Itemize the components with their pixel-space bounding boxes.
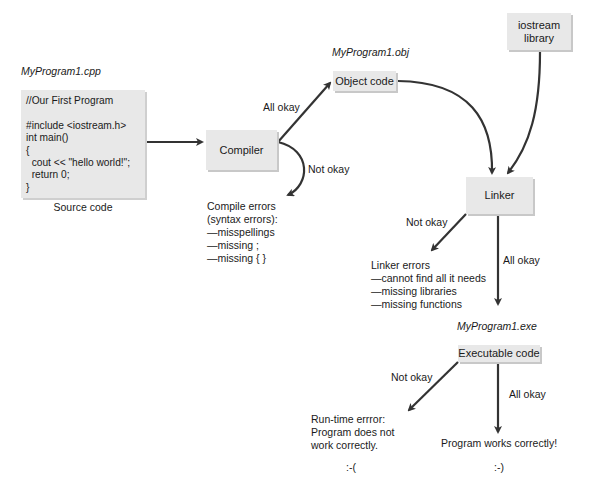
code-line: cout << "hello world!"; [26,157,140,169]
arrow-exe-to-runtime-error [409,362,458,410]
linker-not-okay-label: Not okay [406,216,447,229]
linker-box: Linker [466,177,533,214]
linker-error-item: —cannot find all it needs [371,272,486,285]
compile-error-item: —missing { } [207,252,278,265]
source-caption: Source code [21,201,145,214]
linker-error-item: —missing libraries [371,285,486,298]
code-line: int main() [26,132,140,144]
executable-code-box: Executable code [458,345,540,362]
executable-code-label: Executable code [458,347,539,360]
compile-error-item: —misspellings [207,226,278,239]
code-line: return 0; [26,169,140,181]
code-line [26,107,140,119]
compile-error-item: —missing ; [207,239,278,252]
exe-filename: MyProgram1.exe [457,320,537,332]
compiler-all-okay-label: All okay [263,101,300,114]
runtime-error-line: Run-time errror: [311,413,394,426]
code-line: #include <iostream.h> [26,120,140,132]
runtime-error-line: Program does not [311,426,394,439]
linker-errors-title: Linker errors [371,259,486,272]
arrow-compiler-to-errors [278,142,304,195]
happy-emoticon: :-) [494,461,504,474]
compiler-label: Compiler [219,144,263,157]
iostream-library-box: iostream library [507,13,571,50]
linker-all-okay-label: All okay [503,254,540,267]
compiler-box: Compiler [206,130,277,170]
linker-label: Linker [485,189,515,202]
runtime-error-text: Run-time errror: Program does not work c… [311,413,394,452]
success-text: Program works correctly! [441,437,557,450]
code-line: } [26,182,140,194]
arrow-library-to-linker [508,52,540,173]
object-filename: MyProgram1.obj [332,46,409,58]
exe-all-okay-label: All okay [509,388,546,401]
code-line: { [26,145,140,157]
runtime-error-line: work correctly. [311,439,394,452]
source-filename: MyProgram1.cpp [21,65,101,77]
compile-errors: Compile errors (syntax errors): —misspel… [207,200,278,265]
code-line: //Our First Program [26,95,140,107]
object-code-box: Object code [333,71,396,91]
source-code-box: //Our First Program #include <iostream.h… [21,90,145,198]
library-line-1: iostream [518,19,560,32]
object-code-label: Object code [335,75,394,88]
compile-errors-subtitle: (syntax errors): [207,213,278,226]
linker-errors: Linker errors —cannot find all it needs … [371,259,486,311]
compiler-not-okay-label: Not okay [308,163,349,176]
arrow-object-to-linker [398,81,492,173]
library-line-2: library [524,32,554,45]
compile-errors-title: Compile errors [207,200,278,213]
sad-emoticon: :-( [346,461,356,474]
linker-error-item: —missing functions [371,298,486,311]
exe-not-okay-label: Not okay [391,371,432,384]
